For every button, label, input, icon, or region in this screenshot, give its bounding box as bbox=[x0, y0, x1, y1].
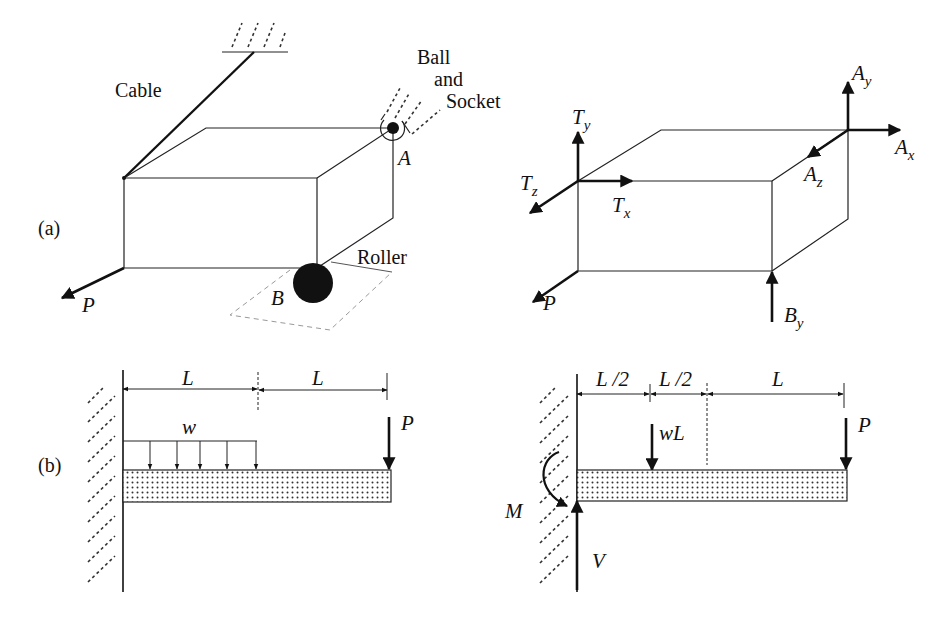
ceiling-support-icon bbox=[222, 23, 288, 52]
beam bbox=[123, 470, 391, 502]
dim-label-2: L /2 bbox=[658, 367, 692, 391]
support-label-socket: Socket bbox=[446, 90, 501, 112]
force-az-label: Az bbox=[802, 162, 823, 190]
dim-label-2: L bbox=[311, 366, 324, 390]
panel-b-label: (b) bbox=[38, 454, 61, 477]
roller-icon bbox=[230, 262, 392, 330]
shear-label: V bbox=[592, 549, 607, 573]
load-p-label: P bbox=[81, 293, 95, 317]
point-load-label: P bbox=[857, 413, 871, 437]
force-p-label: P bbox=[542, 291, 556, 315]
panel-a-right-fbd: Ty Tx Tz Ay Ax Az By P bbox=[520, 61, 915, 331]
panel-b-right: L /2 L /2 L wL P M V bbox=[504, 367, 871, 592]
panel-a-label: (a) bbox=[38, 217, 60, 240]
diagram-canvas: (a) Cable Ball bbox=[0, 0, 950, 622]
support-label-and: and bbox=[434, 68, 463, 90]
force-ay-label: Ay bbox=[850, 61, 872, 89]
cable-line bbox=[124, 52, 254, 178]
dimension-lines bbox=[123, 372, 387, 410]
diagram-svg: (a) Cable Ball bbox=[0, 0, 950, 622]
point-load-label: P bbox=[400, 411, 414, 435]
support-label-ball: Ball bbox=[417, 46, 451, 68]
force-ax-label: Ax bbox=[893, 135, 915, 163]
point-a-label: A bbox=[396, 146, 411, 170]
wall-hatch-icon bbox=[88, 370, 123, 592]
dim-label-3: L bbox=[771, 367, 784, 391]
dimension-lines bbox=[577, 383, 844, 465]
roller-label: Roller bbox=[357, 246, 407, 268]
panel-a-left: (a) Cable Ball bbox=[38, 23, 501, 330]
force-ty-label: Ty bbox=[572, 105, 591, 133]
force-tz-label: Tz bbox=[520, 171, 538, 199]
force-tx-label: Tx bbox=[612, 193, 631, 221]
distributed-load-arrows bbox=[123, 441, 257, 469]
ball-socket-icon bbox=[381, 88, 440, 140]
force-by-label: By bbox=[784, 303, 804, 331]
box-body bbox=[122, 128, 393, 268]
cable-label: Cable bbox=[115, 79, 162, 101]
moment-label: M bbox=[504, 499, 524, 523]
force-az-arrow bbox=[808, 130, 848, 157]
dim-label-1: L bbox=[181, 366, 194, 390]
beam bbox=[577, 470, 847, 501]
resultant-load-label: wL bbox=[659, 421, 685, 445]
dim-label-1: L /2 bbox=[595, 367, 629, 391]
panel-b-left: (b) L L bbox=[38, 366, 414, 592]
distributed-load-label: w bbox=[182, 415, 196, 439]
point-b-label: B bbox=[271, 286, 284, 310]
